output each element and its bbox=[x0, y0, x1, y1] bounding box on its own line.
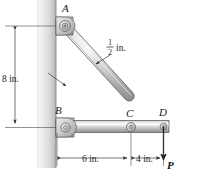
joint-c bbox=[127, 123, 136, 132]
fraction-denominator: 2 bbox=[108, 48, 112, 57]
dimension-label-vertical: 8 in. bbox=[2, 74, 19, 84]
fraction-numerator: 1 bbox=[108, 38, 112, 47]
label-force-p: P bbox=[167, 159, 174, 171]
diagram-canvas: A B C D P bbox=[0, 0, 197, 177]
label-point-d: D bbox=[158, 106, 167, 118]
dimension-label-4in: 4 in. bbox=[136, 154, 153, 164]
joint-b bbox=[56, 118, 77, 137]
label-point-b: B bbox=[55, 104, 62, 116]
dimension-label-6in: 6 in. bbox=[82, 154, 99, 164]
joint-a bbox=[56, 17, 75, 35]
label-point-c: C bbox=[126, 107, 134, 119]
bracket-diagram-figure: A B C D P bbox=[0, 0, 197, 177]
wall bbox=[38, 0, 56, 168]
fraction-unit-label: in. bbox=[116, 43, 126, 53]
thickness-label-half-inch: 1 2 in. bbox=[107, 38, 126, 57]
label-point-a: A bbox=[61, 2, 69, 14]
